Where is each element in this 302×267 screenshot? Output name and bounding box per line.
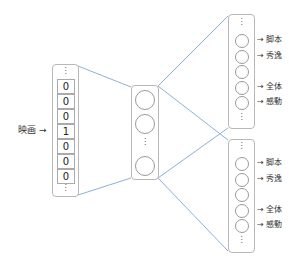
input-cell-3: 1: [57, 124, 75, 139]
output1-top-ellipsis: ⋮: [229, 20, 254, 23]
output2-node-4: [235, 219, 249, 233]
output2-node-3: [235, 204, 249, 218]
hidden-node-0: [135, 90, 155, 110]
output2-label-3: → 全体: [257, 205, 282, 215]
output2-label-4: → 感動: [257, 220, 282, 230]
output-layer-1-box: ⋮ ⋮: [228, 14, 255, 129]
input-to-hidden-top-line: [78, 66, 131, 87]
output2-top-ellipsis: ⋮: [229, 144, 254, 147]
input-cell-6: 0: [57, 169, 75, 184]
hidden-node-1: [135, 114, 155, 134]
hidden-to-output1-bottom-line: [158, 128, 228, 178]
input-label-text: 映画: [18, 125, 36, 135]
input-cell-2: 0: [57, 109, 75, 124]
output2-node-1: [235, 173, 249, 187]
output1-node-3: [235, 81, 249, 95]
hidden-to-output2-top-line: [158, 86, 228, 140]
hidden-to-output1-top-line: [158, 16, 228, 86]
output1-node-1: [235, 50, 249, 64]
output1-label-4: → 感動: [257, 97, 282, 107]
input-cell-0: 0: [57, 79, 75, 94]
input-cell-4: 0: [57, 139, 75, 154]
output1-bottom-ellipsis: ⋮: [229, 115, 254, 118]
output2-label-0: → 脚本: [257, 158, 282, 168]
output1-label-3: → 全体: [257, 82, 282, 92]
input-label: 映画 →: [18, 125, 46, 136]
input-vector-box: ⋮ 0 0 0 1 0 0 0 ⋮: [52, 64, 79, 197]
input-bottom-ellipsis: ⋮: [53, 186, 78, 189]
output1-node-0: [235, 34, 249, 48]
input-cell-1: 0: [57, 94, 75, 109]
hidden-layer-box: ⋮: [131, 85, 159, 180]
hidden-to-output2-bottom-line: [158, 178, 228, 251]
output2-node-2: [235, 188, 249, 202]
hidden-node-2: [135, 156, 155, 176]
output-layer-2-box: ⋮ ⋮: [228, 139, 255, 253]
output2-label-1: → 秀逸: [257, 174, 282, 184]
output1-label-0: → 脚本: [257, 35, 282, 45]
output2-bottom-ellipsis: ⋮: [229, 238, 254, 241]
input-top-ellipsis: ⋮: [53, 69, 78, 72]
output1-node-2: [235, 65, 249, 79]
hidden-ellipsis: ⋮: [132, 140, 158, 143]
output1-node-4: [235, 96, 249, 110]
input-arrow-icon: →: [39, 125, 47, 135]
input-cell-5: 0: [57, 154, 75, 169]
output1-label-1: → 秀逸: [257, 51, 282, 61]
output2-node-0: [235, 157, 249, 171]
input-to-hidden-bottom-line: [78, 178, 131, 195]
